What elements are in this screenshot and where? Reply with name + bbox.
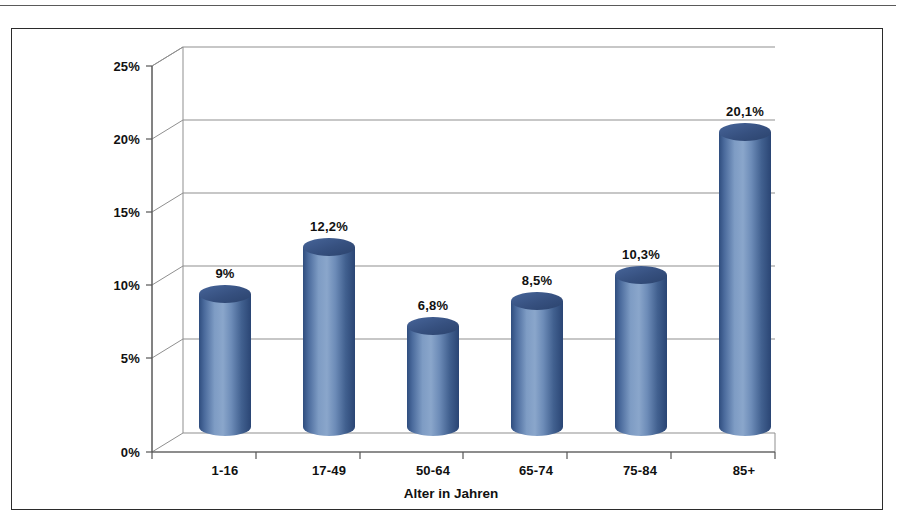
bar-75-84: [615, 266, 667, 436]
y-tick-label-5: 5%: [98, 351, 140, 366]
x-tick-label-50-64: 50-64: [378, 463, 488, 478]
bar-50-64: [407, 317, 459, 436]
data-label-85plus: 20,1%: [695, 104, 795, 119]
y-tick-label-25: 25%: [98, 59, 140, 74]
x-tick-label-75-84: 75-84: [585, 463, 695, 478]
data-label-75-84: 10,3%: [591, 247, 691, 262]
floor-plane: [152, 433, 775, 452]
x-tick-label-65-74: 65-74: [481, 463, 591, 478]
x-tick-label-17-49: 17-49: [274, 463, 384, 478]
y-axis-ticks: [146, 66, 152, 452]
bar-series: [199, 123, 771, 436]
data-label-17-49: 12,2%: [279, 219, 379, 234]
bar-85plus: [719, 123, 771, 436]
data-label-65-74: 8,5%: [487, 273, 587, 288]
y-tick-label-20: 20%: [98, 132, 140, 147]
x-tick-label-85plus: 85+: [689, 463, 799, 478]
x-tick-label-1-16: 1-16: [170, 463, 280, 478]
chart-plot-area: 25% 20% 15% 10% 5% 0% 1-16 17-49 50-64 6…: [0, 0, 902, 529]
y-tick-label-10: 10%: [98, 278, 140, 293]
data-label-1-16: 9%: [175, 266, 275, 281]
x-axis-title: Alter in Jahren: [0, 486, 902, 501]
x-axis-ticks: [152, 452, 775, 459]
y-tick-label-0: 0%: [98, 445, 140, 460]
gridline-15: [152, 193, 775, 212]
bar-65-74: [511, 292, 563, 436]
gridline-20: [152, 120, 775, 139]
bar-17-49: [303, 238, 355, 436]
gridline-25: [152, 47, 775, 66]
data-label-50-64: 6,8%: [383, 298, 483, 313]
bar-1-16: [199, 285, 251, 436]
chart-page: 25% 20% 15% 10% 5% 0% 1-16 17-49 50-64 6…: [0, 0, 902, 529]
y-tick-label-15: 15%: [98, 205, 140, 220]
